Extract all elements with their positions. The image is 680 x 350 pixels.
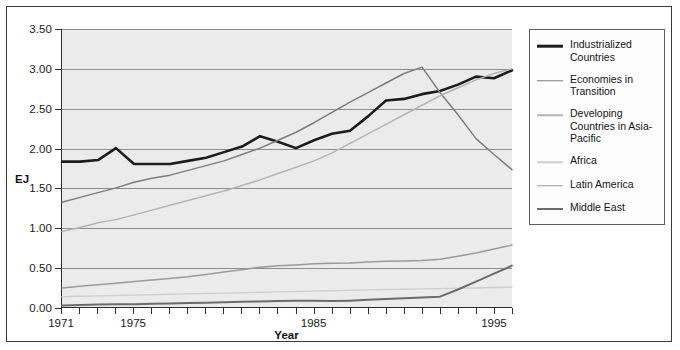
x-axis-tick xyxy=(512,308,513,314)
legend-line-swatch xyxy=(537,75,563,87)
y-axis-tick-label: 2.00 xyxy=(29,143,52,155)
series-line xyxy=(62,70,512,164)
legend-item-label: Developing Countries in Asia-Pacific xyxy=(570,107,657,145)
x-axis-title: Year xyxy=(61,329,512,341)
x-axis-tick xyxy=(223,308,224,314)
y-axis-tick xyxy=(55,228,61,229)
y-axis-tick xyxy=(55,188,61,189)
legend-line-swatch xyxy=(537,109,563,121)
x-axis-tick-label: 1995 xyxy=(481,317,507,329)
x-axis-tick xyxy=(169,308,170,314)
plot-area xyxy=(61,29,512,308)
x-axis-tick xyxy=(259,308,260,314)
x-axis-tick xyxy=(133,308,134,314)
legend-line-swatch xyxy=(537,180,563,192)
legend-item-label: Africa xyxy=(570,154,597,167)
x-axis-tick-label: 1971 xyxy=(48,317,74,329)
x-axis-tick xyxy=(440,308,441,314)
x-axis-tick xyxy=(476,308,477,314)
series-line xyxy=(62,69,512,232)
legend-item[interactable]: Industrialized Countries xyxy=(537,38,657,63)
y-axis-tick xyxy=(55,149,61,150)
y-axis-tick xyxy=(55,29,61,30)
plot-wrapper: 0.000.501.001.502.002.503.003.50 1971197… xyxy=(61,29,512,308)
y-axis-tick xyxy=(55,268,61,269)
series-line xyxy=(62,67,512,202)
y-axis-tick-label: 1.00 xyxy=(29,222,52,234)
chart-legend: Industrialized CountriesEconomies in Tra… xyxy=(529,29,665,225)
y-axis-tick-label: 3.00 xyxy=(29,63,52,75)
series-line xyxy=(62,245,512,288)
legend-line-swatch xyxy=(537,203,563,215)
x-axis-tick xyxy=(314,308,315,314)
y-axis-tick xyxy=(55,69,61,70)
legend-line-swatch xyxy=(537,40,563,52)
x-axis-tick xyxy=(368,308,369,314)
legend-item-label: Industrialized Countries xyxy=(570,38,657,63)
series-lines xyxy=(62,29,512,307)
legend-item[interactable]: Economies in Transition xyxy=(537,73,657,98)
y-axis-tick-label: 2.50 xyxy=(29,103,52,115)
legend-line-swatch xyxy=(537,156,563,168)
x-axis-tick xyxy=(61,308,62,314)
x-axis-tick xyxy=(79,308,80,314)
x-axis-tick xyxy=(494,308,495,314)
x-axis-tick xyxy=(350,308,351,314)
y-axis-title: EJ xyxy=(15,173,29,185)
legend-item-label: Latin America xyxy=(570,178,634,191)
chart-figure: EJ 0.000.501.001.502.002.503.003.50 1971… xyxy=(6,6,672,342)
x-axis-tick xyxy=(332,308,333,314)
x-axis-tick-label: 1985 xyxy=(301,317,327,329)
y-axis-tick-label: 3.50 xyxy=(29,23,52,35)
x-axis-tick xyxy=(404,308,405,314)
x-axis-tick xyxy=(296,308,297,314)
x-axis-tick xyxy=(277,308,278,314)
y-axis-tick-label: 0.50 xyxy=(29,262,52,274)
y-axis-tick-label: 0.00 xyxy=(29,302,52,314)
x-axis-tick xyxy=(205,308,206,314)
legend-item-label: Middle East xyxy=(570,201,625,214)
x-axis-tick xyxy=(422,308,423,314)
x-axis-tick xyxy=(458,308,459,314)
x-axis-tick xyxy=(151,308,152,314)
x-axis-tick xyxy=(241,308,242,314)
x-axis-tick xyxy=(115,308,116,314)
series-line xyxy=(62,266,512,306)
y-axis-tick-label: 1.50 xyxy=(29,182,52,194)
legend-item[interactable]: Africa xyxy=(537,154,657,168)
x-axis-tick xyxy=(386,308,387,314)
legend-item[interactable]: Latin America xyxy=(537,178,657,192)
x-axis-tick xyxy=(187,308,188,314)
legend-item-label: Economies in Transition xyxy=(570,73,657,98)
x-axis-tick xyxy=(97,308,98,314)
legend-item[interactable]: Middle East xyxy=(537,201,657,215)
y-axis-tick xyxy=(55,109,61,110)
x-axis-tick-label: 1975 xyxy=(120,317,146,329)
legend-item[interactable]: Developing Countries in Asia-Pacific xyxy=(537,107,657,145)
